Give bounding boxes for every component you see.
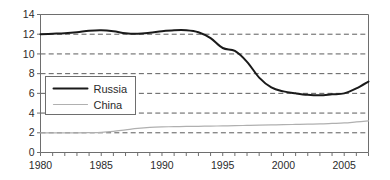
x-tick-label-1990: 1990 [150,159,174,171]
x-tick-label-2005: 2005 [333,159,357,171]
y-tick-label-10: 10 [23,48,35,60]
x-tick-label-1985: 1985 [90,159,114,171]
chart-legend: RussiaChina [46,77,136,115]
y-tick-label-6: 6 [29,87,35,99]
y-tick-label-12: 12 [23,28,35,40]
chart-container: 02468101214 198019851990199520002005 Rus… [0,0,390,180]
x-tick-label-2000: 2000 [272,159,296,171]
line-chart: 02468101214 198019851990199520002005 Rus… [0,0,390,180]
x-tick-label-1980: 1980 [29,159,53,171]
y-tick-label-8: 8 [29,67,35,79]
y-tick-label-14: 14 [23,8,35,20]
legend-label-russia: Russia [94,83,129,95]
legend-label-china: China [94,99,124,111]
y-tick-label-2: 2 [29,126,35,138]
x-tick-label-1995: 1995 [211,159,235,171]
y-tick-label-0: 0 [29,146,35,158]
y-tick-label-4: 4 [29,107,35,119]
